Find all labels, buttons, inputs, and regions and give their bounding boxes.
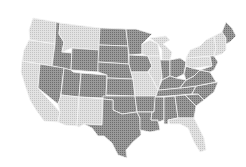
state-SD xyxy=(98,45,129,64)
state-MT xyxy=(59,23,100,52)
state-OH xyxy=(170,58,186,78)
us-choropleth-map xyxy=(0,0,246,167)
state-UT xyxy=(61,68,81,97)
state-CO xyxy=(79,73,107,98)
state-WY xyxy=(71,48,99,72)
state-NY xyxy=(186,36,216,58)
state-AR xyxy=(135,96,156,112)
state-AZ xyxy=(58,95,79,126)
state-ND xyxy=(99,28,128,46)
state-NM xyxy=(77,97,103,127)
state-WA xyxy=(29,18,56,44)
state-FL xyxy=(168,118,206,152)
state-KS xyxy=(106,78,135,96)
